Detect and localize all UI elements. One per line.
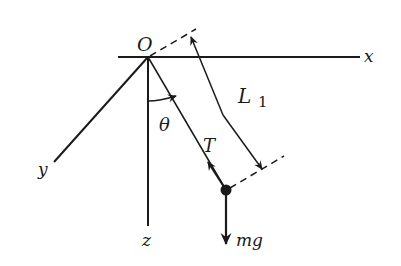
z-axis-label: z bbox=[141, 230, 152, 250]
gravity-label: mg bbox=[236, 230, 263, 250]
origin-label: O bbox=[137, 33, 153, 55]
length-dimension-line-lower bbox=[223, 115, 262, 169]
length-dimension-line bbox=[191, 37, 223, 115]
y-axis bbox=[54, 57, 148, 162]
length-label: L bbox=[237, 84, 251, 108]
theta-label: θ bbox=[159, 114, 170, 135]
length-subscript: 1 bbox=[258, 93, 268, 111]
dashed-extension-top bbox=[150, 29, 196, 56]
pendulum-bob bbox=[221, 185, 232, 196]
tension-label: T bbox=[203, 135, 217, 156]
pendulum-diagram: O x y z θ T mg L 1 bbox=[0, 0, 401, 266]
x-axis-label: x bbox=[364, 46, 374, 66]
y-axis-label: y bbox=[37, 159, 48, 179]
